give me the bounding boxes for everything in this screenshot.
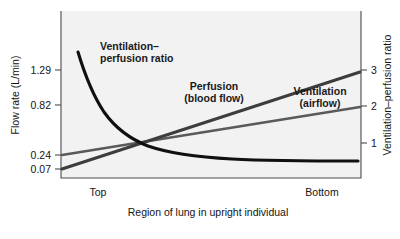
chart-figure: 1.29 0.82 0.24 0.07 Flow rate (L/min) 3 … [0, 0, 400, 239]
x-axis-title: Region of lung in upright individual [128, 206, 289, 218]
annotation-perfusion-line2: (blood flow) [184, 92, 243, 104]
right-tick-label-2: 2 [371, 100, 377, 112]
annotation-ventilation-line1: Ventilation [293, 85, 346, 97]
annotation-vq-line1: Ventilation– [100, 40, 159, 52]
annotation-perfusion: Perfusion (blood flow) [184, 80, 243, 104]
x-label-top: Top [90, 186, 107, 198]
annotation-ventilation-line2: (airflow) [300, 97, 341, 109]
left-tick-label-1: 1.29 [31, 64, 52, 76]
annotation-perfusion-line1: Perfusion [190, 80, 238, 92]
right-tick-label-1: 3 [371, 64, 377, 76]
right-tick-label-3: 1 [371, 137, 377, 149]
left-tick-label-4: 0.07 [31, 163, 52, 175]
left-tick-label-2: 0.82 [31, 99, 52, 111]
chart-svg: 1.29 0.82 0.24 0.07 Flow rate (L/min) 3 … [0, 0, 400, 239]
right-axis-title: Ventilation–perfusion ratio [381, 34, 393, 155]
x-label-bottom: Bottom [305, 186, 339, 198]
annotation-vq-line2: perfusion ratio [100, 52, 174, 64]
left-tick-label-3: 0.24 [31, 149, 52, 161]
left-axis-title: Flow rate (L/min) [9, 56, 21, 135]
annotation-ventilation: Ventilation (airflow) [293, 85, 346, 109]
